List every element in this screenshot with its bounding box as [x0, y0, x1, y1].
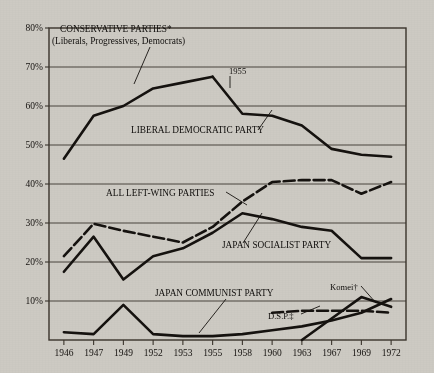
annotation-conservative-line2: (Liberals, Progressives, Democrats) [52, 36, 185, 47]
annotation-conservative-line1: CONSERVATIVE PARTIES* [60, 24, 172, 34]
annotation-layer: CONSERVATIVE PARTIES* (Liberals, Progres… [0, 0, 434, 373]
annotation-jsp: JAPAN SOCIALIST PARTY [222, 240, 331, 250]
annotation-ldp: LIBERAL DEMOCRATIC PARTY [131, 125, 264, 135]
annotation-year-1955: 1955 [229, 66, 246, 76]
annotation-komeito: Komei† [330, 282, 358, 292]
annotation-left-wing: ALL LEFT-WING PARTIES [106, 188, 214, 198]
annotation-dsp: D.S.P.‡ [268, 311, 294, 321]
election-results-line-chart: 10%20%30%40%50%60%70%80% 194619471949195… [0, 0, 434, 373]
annotation-jcp: JAPAN COMMUNIST PARTY [155, 288, 274, 298]
